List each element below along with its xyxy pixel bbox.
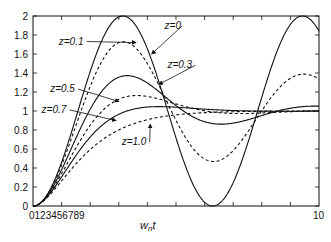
y-tick-label: 0 bbox=[22, 201, 28, 212]
x-axis-label: wnt bbox=[140, 219, 156, 233]
annotation-arrow bbox=[87, 42, 136, 43]
annotation-arrow bbox=[78, 89, 119, 102]
annotation-label: z=0 bbox=[164, 20, 182, 31]
x-tick-label-10: 10 bbox=[313, 210, 325, 221]
y-tick-label: 0.8 bbox=[14, 125, 28, 136]
annotation-label: z=0.7 bbox=[41, 104, 67, 115]
y-tick-label: 1.4 bbox=[14, 68, 28, 79]
series-annotations: z=0z=0.1z=0.3z=0.5z=0.7z=1.0 bbox=[41, 20, 196, 147]
x-axis-label-tail: t bbox=[152, 219, 156, 231]
y-tick-label: 1.6 bbox=[14, 49, 28, 60]
curve-z-0-3 bbox=[33, 76, 319, 206]
curve-z-0-5 bbox=[33, 96, 319, 206]
y-tick-label: 0.6 bbox=[14, 144, 28, 155]
annotation-label: z=0.5 bbox=[49, 83, 75, 94]
annotation-arrow bbox=[150, 124, 151, 142]
y-tick-label: 1.2 bbox=[14, 87, 28, 98]
y-tick-label: 0.2 bbox=[14, 182, 28, 193]
y-tick-label: 1 bbox=[22, 106, 28, 117]
x-tick-labels-run: 0123456789 bbox=[29, 210, 85, 221]
step-response-chart: 00.20.40.60.811.21.41.61.82 z=0z=0.1z=0.… bbox=[0, 0, 331, 242]
annotation-label: z=1.0 bbox=[121, 136, 147, 147]
y-tick-label: 2 bbox=[22, 11, 28, 22]
y-tick-label: 0.4 bbox=[14, 163, 28, 174]
annotation-label: z=0.1 bbox=[58, 36, 84, 47]
y-tick-label: 1.8 bbox=[14, 30, 28, 41]
